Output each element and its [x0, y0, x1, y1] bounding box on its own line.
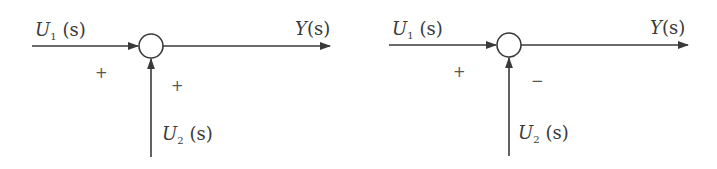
input1-sign: + [453, 63, 466, 81]
output-label: Y(s) [295, 18, 330, 39]
summing-junction-diagrams: U1(s) Y(s) U2(s) + + U1(s) Y(s) U2(s) + … [0, 0, 717, 169]
input1-label: U1(s) [35, 19, 86, 42]
input2-label: U2(s) [518, 122, 569, 145]
summing-junction-circle [139, 34, 163, 58]
diagram-left: U1(s) Y(s) U2(s) + + [32, 18, 330, 157]
summing-junction-circle [497, 33, 521, 57]
input1-label: U1(s) [392, 18, 443, 41]
input2-sign: + [171, 77, 184, 95]
input2-label: U2(s) [162, 123, 213, 146]
input1-sign: + [95, 64, 108, 82]
output-label: Y(s) [650, 17, 685, 38]
input2-sign: − [531, 72, 544, 90]
diagram-right: U1(s) Y(s) U2(s) + − [389, 17, 688, 156]
